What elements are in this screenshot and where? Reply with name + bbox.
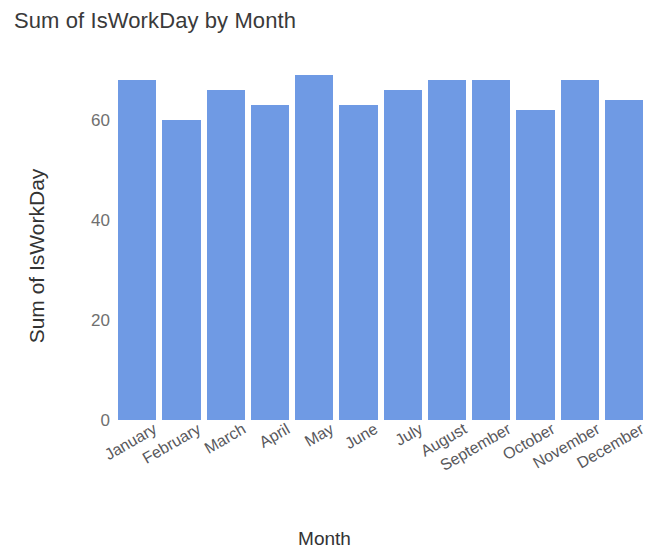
chart-title: Sum of IsWorkDay by Month xyxy=(14,8,296,34)
x-axis-tick: March xyxy=(201,420,248,458)
bar[interactable] xyxy=(472,80,510,420)
bar[interactable] xyxy=(605,100,643,420)
bar[interactable] xyxy=(339,105,377,420)
y-axis-tick-labels: 0204060 xyxy=(58,60,110,420)
y-axis-tick: 60 xyxy=(91,112,110,129)
bar[interactable] xyxy=(561,80,599,420)
bar[interactable] xyxy=(295,75,333,420)
bar-chart: Sum of IsWorkDay by Month Sum of IsWorkD… xyxy=(0,0,649,559)
y-axis-tick: 40 xyxy=(91,212,110,229)
x-axis-tick: May xyxy=(302,420,337,451)
y-axis-title: Sum of IsWorkDay xyxy=(25,136,49,376)
bar-series xyxy=(118,60,649,420)
bar[interactable] xyxy=(384,90,422,420)
y-axis-tick: 0 xyxy=(101,412,110,429)
bar[interactable] xyxy=(428,80,466,420)
bar[interactable] xyxy=(162,120,200,420)
x-axis-tick-labels: JanuaryFebruaryMarchAprilMayJuneJulyAugu… xyxy=(118,420,649,520)
x-axis-title: Month xyxy=(0,528,649,550)
bar[interactable] xyxy=(251,105,289,420)
plot-area xyxy=(118,60,649,420)
x-axis-tick: April xyxy=(256,420,293,452)
bar[interactable] xyxy=(516,110,554,420)
y-axis-tick: 20 xyxy=(91,312,110,329)
bar[interactable] xyxy=(207,90,245,420)
bar[interactable] xyxy=(118,80,156,420)
x-axis-tick: June xyxy=(342,420,381,453)
